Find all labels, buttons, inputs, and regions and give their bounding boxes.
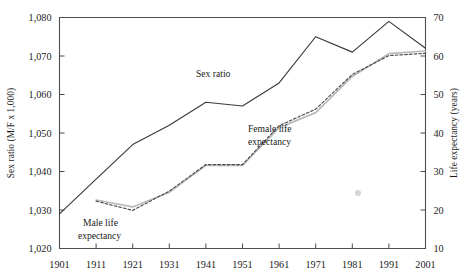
right-tick-label-40: 40	[434, 128, 444, 139]
sex-ratio-life-expectancy-chart: 1,0201,0301,0401,0501,0601,0701,080 1020…	[0, 0, 469, 280]
x-tick-label-1971: 1971	[306, 259, 326, 270]
x-tick-label-1921: 1921	[123, 259, 143, 270]
left-tick-label-1050: 1,050	[29, 128, 52, 139]
left-axis-title: Sex ratio (M/F x 1,000)	[6, 88, 17, 178]
female-life-expectancy-annotation-line1: Female life	[248, 123, 291, 134]
left-tick-label-1070: 1,070	[29, 51, 52, 62]
right-tick-label-10: 10	[434, 243, 444, 254]
x-tick-label-1941: 1941	[196, 259, 216, 270]
right-tick-label-30: 30	[434, 166, 444, 177]
x-tick-label-1991: 1991	[379, 259, 399, 270]
left-tick-label-1030: 1,030	[29, 205, 52, 216]
chart-background	[0, 0, 469, 280]
male-life-expectancy-annotation-line2: expectancy	[78, 230, 121, 241]
female-life-expectancy-annotation-line2: expectancy	[248, 136, 291, 147]
x-tick-label-1981: 1981	[342, 259, 362, 270]
left-tick-label-1020: 1,020	[29, 243, 52, 254]
left-tick-label-1040: 1,040	[29, 166, 52, 177]
left-tick-label-1060: 1,060	[29, 89, 52, 100]
x-tick-label-1961: 1961	[269, 259, 289, 270]
x-tick-label-2001: 2001	[415, 259, 435, 270]
stray-marks-group	[355, 190, 361, 196]
right-tick-label-50: 50	[434, 89, 444, 100]
male-life-expectancy-annotation-line1: Male life	[83, 217, 118, 228]
sex-ratio-annotation: Sex ratio	[196, 68, 231, 79]
x-tick-label-1901: 1901	[49, 259, 69, 270]
left-tick-label-1080: 1,080	[29, 12, 52, 23]
x-tick-label-1951: 1951	[232, 259, 252, 270]
x-tick-label-1911: 1911	[86, 259, 106, 270]
figure-container: 1,0201,0301,0401,0501,0601,0701,080 1020…	[0, 0, 469, 280]
right-tick-label-20: 20	[434, 205, 444, 216]
right-tick-label-60: 60	[434, 51, 444, 62]
gray-dot-artifact	[355, 190, 361, 196]
x-tick-label-1931: 1931	[159, 259, 179, 270]
right-axis-title: Life expectancy (years)	[449, 88, 460, 178]
right-tick-label-70: 70	[434, 12, 444, 23]
